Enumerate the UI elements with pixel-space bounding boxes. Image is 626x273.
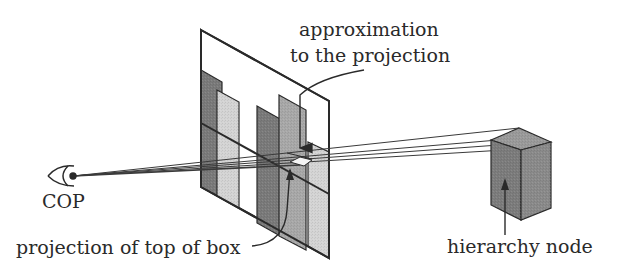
eye-icon [48, 166, 76, 186]
bar-3-dark [257, 106, 282, 237]
bar-2-light [217, 90, 239, 208]
label-cop: COP [42, 190, 85, 212]
projection-diagram: approximation to the projection COP proj… [0, 0, 626, 273]
label-to-the-projection: to the projection [290, 44, 450, 66]
label-projection-of-top-of-box: projection of top of box [16, 236, 241, 258]
hierarchy-node-box [491, 128, 551, 220]
label-hierarchy-node: hierarchy node [447, 235, 593, 257]
label-approximation: approximation [299, 18, 439, 40]
